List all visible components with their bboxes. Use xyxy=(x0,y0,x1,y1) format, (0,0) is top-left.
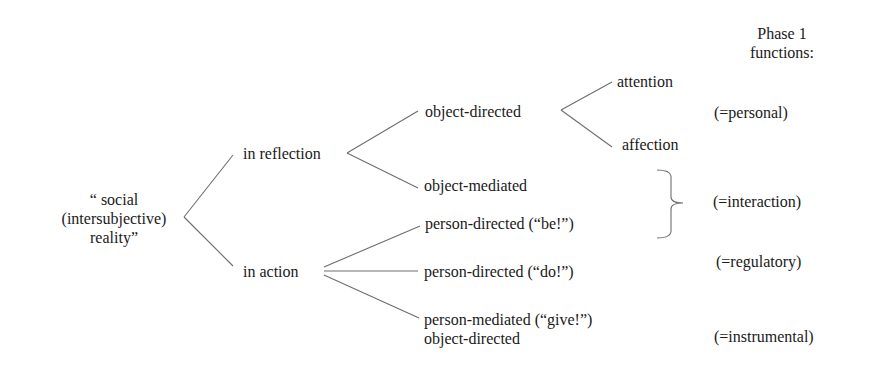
root-node: “ social (intersubjective) reality” xyxy=(44,190,184,247)
function-instrumental: (=instrumental) xyxy=(714,327,814,346)
function-personal: (=personal) xyxy=(714,103,788,122)
connector-reflection-object-directed xyxy=(347,111,418,153)
node-object-directed: object-directed xyxy=(425,102,521,121)
diagram-canvas: Phase 1 functions: “ social (intersubjec… xyxy=(0,0,872,377)
node-person-mediated-give-line1: person-mediated (“give!”) xyxy=(424,310,592,329)
node-person-directed-do: person-directed (“do!”) xyxy=(424,262,574,281)
connector-root-action xyxy=(184,217,233,266)
node-affection: affection xyxy=(622,135,679,154)
connector-root-reflection xyxy=(184,155,233,217)
connector-reflection-object-mediated xyxy=(347,153,418,188)
root-line1: “ social xyxy=(44,190,184,209)
connector-object-directed-attention xyxy=(561,82,612,110)
node-person-directed-be: person-directed (“be!”) xyxy=(425,214,574,233)
phase-title-line1: Phase 1 xyxy=(742,24,822,43)
phase-title: Phase 1 functions: xyxy=(742,24,822,62)
function-interaction: (=interaction) xyxy=(713,192,801,211)
grouping-brace xyxy=(657,170,683,238)
node-attention: attention xyxy=(617,72,673,91)
connector-action-give xyxy=(324,275,419,318)
node-object-mediated: object-mediated xyxy=(424,176,527,195)
root-line3: reality” xyxy=(44,228,184,247)
node-in-action: in action xyxy=(243,262,299,281)
connector-object-directed-affection xyxy=(561,110,612,147)
connector-action-be xyxy=(324,226,420,267)
root-line2: (intersubjective) xyxy=(44,209,184,228)
node-person-mediated-give-line2: object-directed xyxy=(424,329,592,348)
phase-title-line2: functions: xyxy=(742,43,822,62)
node-person-mediated-give: person-mediated (“give!”) object-directe… xyxy=(424,310,592,348)
function-regulatory: (=regulatory) xyxy=(716,252,801,271)
node-in-reflection: in reflection xyxy=(243,144,321,163)
